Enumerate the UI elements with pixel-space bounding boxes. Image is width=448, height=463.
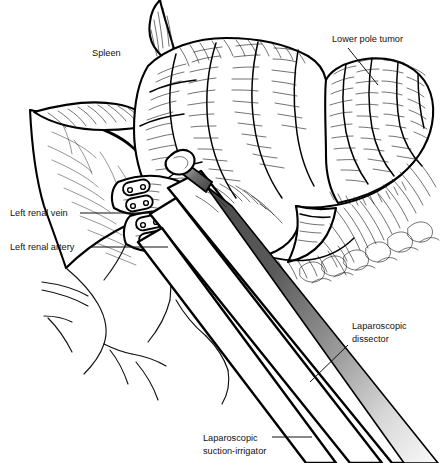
medical-illustration-figure: Spleen Lower pole tumor Left renal vein …	[0, 0, 448, 463]
label-lower-pole-tumor: Lower pole tumor	[332, 34, 403, 44]
illustration-canvas: Spleen Lower pole tumor Left renal vein …	[0, 0, 448, 463]
label-left-renal-artery: Left renal artery	[10, 242, 75, 252]
label-laparoscopic-dissector-line2: dissector	[352, 334, 389, 344]
label-suction-irrigator-line1: Laparoscopic	[203, 433, 258, 443]
label-spleen: Spleen	[92, 48, 121, 58]
label-laparoscopic-dissector-line1: Laparoscopic	[352, 321, 407, 331]
label-suction-irrigator-line2: suction-irrigator	[203, 446, 266, 456]
label-left-renal-vein: Left renal vein	[10, 208, 68, 218]
